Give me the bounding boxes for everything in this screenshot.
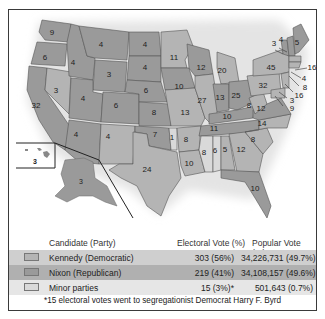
header-electoral: Electoral Vote (%) bbox=[177, 238, 245, 248]
footnote: *15 electoral votes went to segregationi… bbox=[9, 296, 316, 305]
label-az: 4 bbox=[74, 131, 78, 139]
label-ok: 7 bbox=[153, 131, 157, 139]
label-wy: 3 bbox=[107, 71, 111, 79]
legend-row-kennedy: Kennedy (Democratic) 303 (56%) 34,226,73… bbox=[9, 250, 316, 265]
label-nj: 16 bbox=[295, 92, 304, 100]
label-ar: 8 bbox=[184, 136, 188, 144]
swatch-republican bbox=[24, 268, 39, 276]
label-pa: 32 bbox=[259, 82, 268, 90]
label-tx: 24 bbox=[143, 166, 152, 174]
label-me: 5 bbox=[295, 39, 299, 47]
label-wv: 8 bbox=[247, 102, 251, 110]
label-fl: 10 bbox=[251, 185, 260, 193]
legend-header: Candidate (Party) Electoral Vote (%) Pop… bbox=[9, 235, 316, 249]
state-de-md bbox=[271, 88, 285, 98]
label-ne: 6 bbox=[144, 87, 148, 95]
label-ak: 3 bbox=[79, 178, 83, 185]
label-tn: 11 bbox=[210, 125, 218, 133]
label-ia: 10 bbox=[175, 83, 184, 91]
legend-row-nixon: Nixon (Republican) 219 (41%) 34,108,157 … bbox=[9, 265, 316, 280]
label-ok-minor: 1 bbox=[170, 134, 174, 142]
popular-vote: 34,108,157 (49.6%) bbox=[241, 268, 313, 278]
label-nh: 4 bbox=[279, 36, 283, 44]
label-wa: 9 bbox=[50, 29, 54, 37]
label-va: 12 bbox=[257, 105, 266, 113]
label-il: 27 bbox=[198, 97, 207, 105]
popular-vote: 34,226,731 (49.7%) bbox=[241, 253, 313, 263]
label-mn: 11 bbox=[170, 54, 178, 62]
state-ar bbox=[177, 126, 201, 152]
swatch-minor bbox=[24, 283, 39, 291]
label-ut: 4 bbox=[81, 95, 85, 103]
label-nm: 4 bbox=[106, 133, 110, 141]
state-ma bbox=[289, 56, 301, 62]
electoral-vote: 303 (56%) bbox=[179, 253, 234, 263]
label-al: 5 bbox=[223, 146, 227, 154]
label-ma: 16 bbox=[308, 64, 317, 72]
label-ri: 4 bbox=[302, 75, 306, 83]
map-figure-frame: 9 6 32 3 4 4 3 4 4 6 4 4 4 6 8 7 1 24 11… bbox=[8, 9, 317, 311]
state-mt bbox=[79, 26, 129, 60]
candidate-name: Kennedy (Democratic) bbox=[49, 253, 134, 263]
label-ca: 32 bbox=[32, 102, 41, 110]
label-mt: 4 bbox=[99, 41, 103, 49]
label-md: 9 bbox=[290, 105, 294, 113]
swatch-democratic bbox=[24, 253, 39, 261]
label-al-minor: 6 bbox=[213, 147, 217, 155]
electoral-vote: 15 (3%)* bbox=[179, 283, 234, 293]
label-vt: 3 bbox=[272, 40, 276, 48]
state-wa bbox=[39, 20, 71, 42]
label-la: 10 bbox=[185, 160, 194, 168]
label-id: 4 bbox=[71, 59, 75, 67]
state-ct-ri bbox=[289, 62, 301, 68]
legend-row-minor: Minor parties 15 (3%)* 501,643 (0.7%) bbox=[9, 280, 316, 295]
label-in: 13 bbox=[216, 94, 225, 102]
label-co: 6 bbox=[114, 102, 118, 110]
electoral-vote: 219 (41%) bbox=[179, 268, 234, 278]
state-co bbox=[101, 92, 139, 124]
label-ky: 10 bbox=[223, 113, 232, 121]
label-nd: 4 bbox=[143, 41, 147, 49]
state-or bbox=[31, 42, 67, 66]
label-or: 6 bbox=[43, 54, 47, 62]
label-ga: 12 bbox=[237, 146, 246, 154]
candidate-name: Nixon (Republican) bbox=[49, 268, 121, 278]
label-nc: 14 bbox=[258, 120, 267, 128]
results-legend: Candidate (Party) Electoral Vote (%) Pop… bbox=[9, 231, 316, 311]
label-wi: 12 bbox=[197, 64, 206, 72]
popular-vote: 501,643 (0.7%) bbox=[241, 283, 313, 293]
label-ny: 45 bbox=[267, 64, 276, 72]
label-sd: 4 bbox=[143, 64, 147, 72]
label-sc: 8 bbox=[251, 136, 255, 144]
label-mo: 13 bbox=[181, 109, 190, 117]
label-hi: 3 bbox=[33, 158, 37, 165]
label-nv: 3 bbox=[54, 87, 58, 95]
us-electoral-map: 9 6 32 3 4 4 3 4 4 6 4 4 4 6 8 7 1 24 11… bbox=[9, 10, 318, 232]
candidate-name: Minor parties bbox=[49, 283, 98, 293]
header-candidate: Candidate (Party) bbox=[49, 238, 116, 248]
label-ms: 8 bbox=[202, 149, 206, 157]
state-nm bbox=[99, 124, 135, 164]
label-ks: 8 bbox=[152, 109, 156, 117]
label-mi: 20 bbox=[218, 67, 227, 75]
label-oh: 25 bbox=[232, 92, 241, 100]
